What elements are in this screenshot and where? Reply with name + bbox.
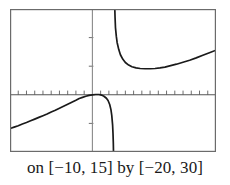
graph-figure: on [−10, 15] by [−20, 30] <box>0 0 230 185</box>
figure-caption: on [−10, 15] by [−20, 30] <box>0 156 230 180</box>
graph-svg <box>10 9 216 152</box>
plot-area <box>10 9 216 152</box>
